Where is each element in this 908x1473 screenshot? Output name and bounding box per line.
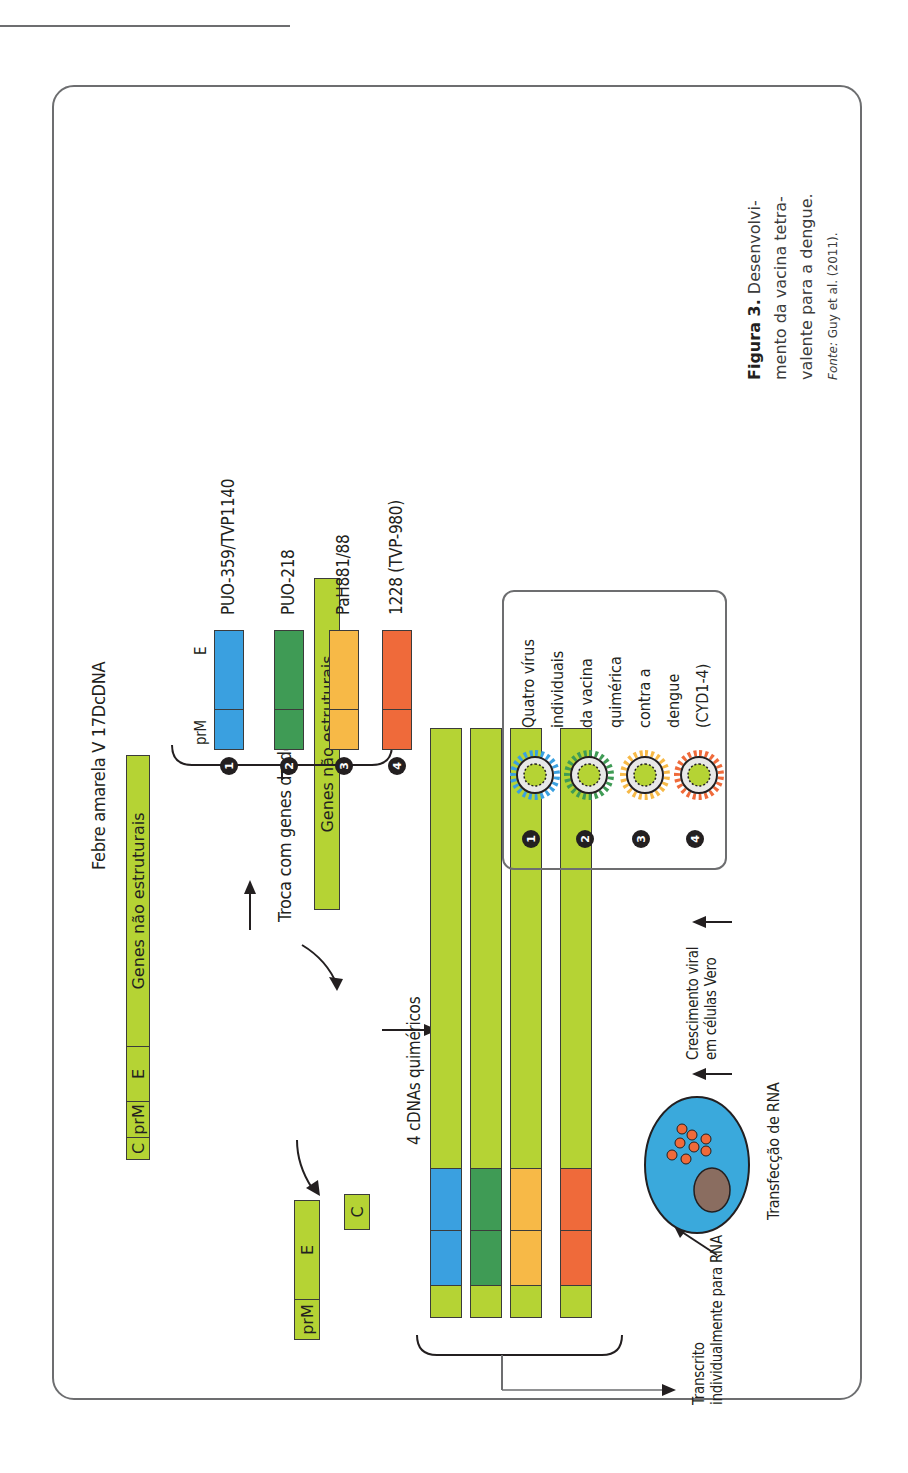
- transcription-connector: [502, 1350, 702, 1400]
- donor-name-2: PUO-218: [278, 549, 298, 615]
- caption-line-2: mento da vacina tetra-: [768, 193, 794, 380]
- caption-label: Figura 3.: [745, 299, 764, 380]
- chimeric-bar-1: [430, 728, 462, 1318]
- caption-line-1: Desenvolvi-: [745, 200, 764, 294]
- arrow-up-icon: [692, 1062, 732, 1082]
- virus-number-4-icon: 4: [686, 830, 704, 848]
- virus-number-2-icon: 2: [576, 830, 594, 848]
- number-3-icon: 3: [335, 757, 353, 775]
- cell-icon: [642, 1095, 752, 1235]
- transcribed-label-1: Transcrito: [690, 1342, 708, 1405]
- removed-prm: prM: [295, 1299, 319, 1339]
- virus-panel-text: Quatro vírus individuais da vacina quimé…: [514, 639, 717, 728]
- virus-number-1-icon: 1: [522, 830, 540, 848]
- number-4-icon: 4: [388, 757, 406, 775]
- donor-bar-2: [274, 630, 304, 750]
- growth-label-2: em células Vero: [702, 958, 720, 1060]
- caption-line-3: valente para a dengue.: [794, 193, 820, 380]
- source-label: Fonte:: [826, 342, 840, 380]
- removed-e: E: [295, 1201, 319, 1299]
- yf-e-gene: E: [127, 1046, 149, 1101]
- removed-prm-e-bar: prM E: [294, 1200, 320, 1340]
- source-text: Guy et al. (2011).: [826, 232, 840, 338]
- virus-number-3-icon: 3: [632, 830, 650, 848]
- removed-c: C: [344, 1194, 370, 1230]
- yf-ns-genes: Genes não estruturais: [127, 756, 149, 1046]
- chimeric-bar-2: [470, 728, 502, 1318]
- chimeric-label: 4 cDNAs quiméricos: [404, 997, 424, 1145]
- donor-header-prm: prM: [192, 720, 210, 745]
- yf-genome-bar: C prM E Genes não estruturais: [126, 755, 150, 1160]
- curved-arrow-back-icon: [292, 1130, 352, 1210]
- donor-bar-1: [214, 630, 244, 750]
- donor-name-4: 1228 (TVP-980): [386, 500, 406, 615]
- virus-particles-icon: [509, 733, 724, 813]
- top-rule: [0, 25, 290, 27]
- number-2-icon: 2: [280, 757, 298, 775]
- yf-title: Febre amarela V 17DcDNA: [88, 662, 109, 870]
- virus-panel: 1 2 3 4: [502, 590, 727, 870]
- yf-c-gene: C: [127, 1137, 149, 1159]
- arrow-right-icon: [242, 880, 262, 930]
- donor-name-3: PaH881/88: [333, 535, 353, 615]
- yf-prm-gene: prM: [127, 1101, 149, 1137]
- figure-caption: Figura 3. Desenvolvi- mento da vacina te…: [742, 193, 846, 380]
- figure-canvas: Febre amarela V 17DcDNA C prM E Genes nã…: [52, 85, 862, 1400]
- number-1-icon: 1: [220, 757, 238, 775]
- donor-header-e: E: [192, 647, 210, 655]
- donor-bar-3: [329, 630, 359, 750]
- transcribed-label-2: individualmente para RNA: [708, 1235, 726, 1405]
- arrow-up-icon-2: [692, 910, 732, 930]
- donor-name-1: PUO-359/TVP1140: [218, 479, 238, 615]
- transfection-label: Transfecção de RNA: [764, 1082, 783, 1220]
- donor-bar-4: [382, 630, 412, 750]
- curved-arrow-icon: [297, 925, 357, 1005]
- growth-label-1: Crescimento viral: [684, 947, 702, 1060]
